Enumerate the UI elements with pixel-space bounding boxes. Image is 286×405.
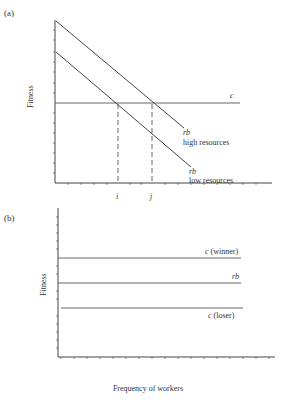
panel-a-label: (a) [4, 8, 14, 18]
panel-a-rb-low-line [56, 52, 191, 167]
panel-a-rb-low-symbol: rb [189, 167, 196, 176]
panel-a-c-label: c [230, 91, 234, 100]
panel-a: (a) [4, 8, 272, 201]
panel-a-i-label: i [116, 192, 118, 201]
panel-a-rb-high-symbol: rb [183, 128, 190, 137]
panel-b-c-loser-suffix: (loser) [212, 311, 235, 320]
panel-b-c-winner-label: c (winner) [205, 247, 238, 256]
panel-b-label: (b) [4, 213, 15, 223]
panel-a-j-label: j [149, 192, 153, 201]
panel-b-c-winner-suffix: (winner) [209, 247, 239, 256]
figure: (a) [0, 0, 286, 405]
panel-a-y-label: Fitness [26, 85, 35, 108]
panel-b-c-loser-label: c (loser) [208, 311, 235, 320]
panel-a-rb-high-label: high resources [183, 138, 229, 147]
panel-b-y-label: Fitness [39, 273, 48, 296]
panel-a-rb-low-label: low resources [189, 176, 233, 185]
panel-b-x-label: Frequency of workers [113, 384, 183, 393]
panel-b-rb-label: rb [232, 272, 239, 281]
panel-b: (b) [4, 208, 275, 393]
panel-a-rb-high-line [56, 21, 184, 128]
